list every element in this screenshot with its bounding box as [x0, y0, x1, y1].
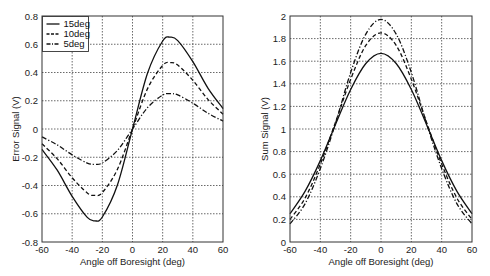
x-axis-label: Angle off Boresight (deg): [80, 256, 185, 267]
x-tick-label: 40: [188, 244, 199, 255]
error-signal-chart: -60-40-2002040600.80.60.40.20-0.2-0.4-0.…: [10, 11, 228, 268]
y-axis-label: Sum Signal (V): [259, 97, 270, 161]
x-tick-label: 60: [467, 244, 478, 255]
y-tick-label: 0.4: [25, 67, 38, 78]
y-tick-label: 0.6: [25, 39, 38, 50]
x-tick-label: -40: [313, 244, 327, 255]
y-tick-label: -0.2: [22, 152, 38, 163]
legend-label: 5deg: [64, 38, 85, 49]
legend: 15deg10deg5deg: [43, 17, 90, 52]
x-tick-label: 20: [406, 244, 417, 255]
x-tick-label: 20: [157, 244, 168, 255]
y-tick-label: -0.8: [22, 237, 38, 248]
y-tick-label: 1: [281, 124, 286, 135]
x-tick-label: -40: [65, 244, 79, 255]
x-tick-label: 60: [218, 244, 229, 255]
y-tick-label: 0.8: [25, 11, 38, 22]
x-tick-label: 0: [378, 244, 383, 255]
y-tick-label: 2: [281, 11, 286, 22]
x-axis-label: Angle off Boresight (deg): [329, 256, 434, 267]
charts-canvas: -60-40-2002040600.80.60.40.20-0.2-0.4-0.…: [0, 0, 490, 276]
y-tick-label: 0.8: [273, 146, 286, 157]
y-tick-label: 1.4: [273, 78, 286, 89]
y-tick-label: 0.4: [273, 191, 286, 202]
sum-signal-chart: -60-40-20020406021.81.61.41.210.80.60.40…: [259, 11, 477, 268]
x-tick-label: -20: [344, 244, 358, 255]
y-tick-label: 0: [281, 237, 286, 248]
y-tick-label: 1.6: [273, 56, 286, 67]
y-tick-label: 0.2: [25, 95, 38, 106]
y-tick-label: 1.8: [273, 33, 286, 44]
y-axis-label: Error Signal (V): [10, 96, 21, 161]
y-tick-label: 0.2: [273, 214, 286, 225]
x-tick-label: 40: [436, 244, 447, 255]
y-tick-label: 0.6: [273, 169, 286, 180]
x-tick-label: -20: [95, 244, 109, 255]
y-tick-label: 0: [33, 124, 38, 135]
y-tick-label: -0.4: [22, 180, 38, 191]
y-tick-label: 1.2: [273, 101, 286, 112]
y-tick-label: -0.6: [22, 208, 38, 219]
grid: [290, 16, 472, 242]
x-tick-label: 0: [130, 244, 135, 255]
